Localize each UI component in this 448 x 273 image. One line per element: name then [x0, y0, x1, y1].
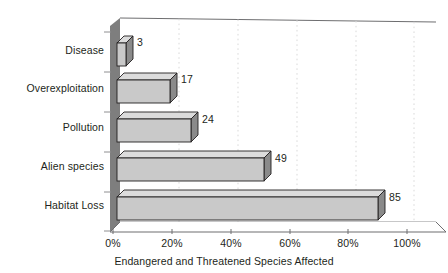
bar-chart: Disease Overexploitation Pollution Alien… [0, 0, 448, 273]
value-label-habitat-loss: 85 [389, 191, 401, 203]
x-axis-title: Endangered and Threatened Species Affect… [0, 255, 448, 267]
x-tick-label-60: 60% [270, 237, 310, 249]
category-label-text: Alien species [4, 160, 104, 172]
bar-pollution [117, 112, 198, 142]
x-tick-label-80: 80% [328, 237, 368, 249]
x-tick-label-20: 20% [152, 237, 192, 249]
x-tick-label-100: 100% [385, 237, 429, 249]
bar-overexploitation [117, 73, 177, 103]
value-label-disease: 3 [137, 36, 143, 48]
category-label-text: Pollution [4, 121, 104, 133]
value-label-alien-species: 49 [275, 152, 287, 164]
category-label-text: Overexploitation [4, 82, 104, 94]
chart-plot-area [0, 0, 448, 273]
value-label-overexploitation: 17 [181, 73, 193, 85]
chart-floor [110, 222, 446, 232]
value-label-pollution: 24 [202, 113, 214, 125]
category-label-text: Habitat Loss [4, 199, 104, 211]
x-tick-label-0: 0% [93, 237, 133, 249]
x-tick-label-40: 40% [211, 237, 251, 249]
category-label-text: Disease [4, 44, 104, 56]
bar-disease [117, 36, 133, 66]
bar-habitat-loss [117, 190, 385, 220]
chart-y-ticks [104, 32, 111, 231]
bar-alien-species [117, 151, 271, 181]
